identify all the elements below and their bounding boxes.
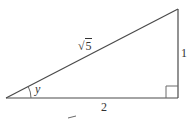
adjacent-side-label: 2 [101, 101, 107, 113]
angle-arc [28, 87, 31, 99]
opposite-side-label: 1 [181, 47, 187, 59]
sqrt-radicand: 5 [85, 38, 92, 53]
angle-label: y [35, 83, 40, 95]
hypotenuse-label: √5 [78, 40, 92, 52]
triangle-diagram [0, 0, 188, 122]
hypotenuse-edge [6, 9, 178, 98]
right-angle-marker [166, 86, 178, 98]
sqrt-symbol: √ [78, 39, 85, 53]
stray-mark [68, 116, 76, 118]
